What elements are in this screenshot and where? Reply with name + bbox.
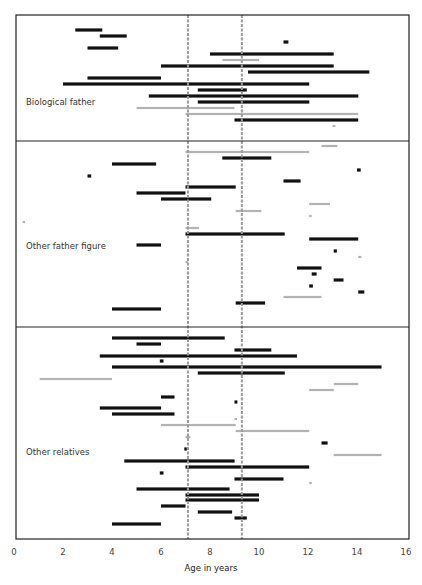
- range-bar: [186, 232, 285, 235]
- range-bar: [284, 40, 289, 43]
- range-bar: [186, 498, 260, 501]
- range-bar: [100, 354, 297, 357]
- range-bar: [88, 46, 119, 49]
- range-bar: [100, 34, 127, 37]
- range-bar: [333, 125, 336, 127]
- range-bar: [198, 88, 247, 91]
- range-bar: [309, 482, 312, 484]
- range-bar: [235, 516, 247, 519]
- range-bar: [309, 389, 334, 391]
- range-bar: [161, 395, 175, 398]
- x-tick-label: 8: [207, 547, 212, 557]
- panel-label-biological-father: Biological father: [26, 97, 96, 107]
- range-bar: [235, 118, 359, 121]
- x-tick-label: 14: [352, 547, 363, 557]
- range-bar: [75, 28, 102, 31]
- chart: Biological father Other father figure Ot…: [0, 0, 422, 585]
- range-bar: [334, 278, 344, 281]
- range-bar: [235, 348, 272, 351]
- range-bar: [334, 383, 359, 385]
- range-bar: [322, 441, 328, 444]
- range-bar: [236, 430, 310, 432]
- range-bar: [235, 400, 238, 403]
- range-bar: [161, 64, 334, 67]
- range-bar: [297, 266, 322, 269]
- range-bar: [186, 465, 310, 468]
- range-bar: [284, 296, 322, 298]
- range-bar: [161, 424, 236, 426]
- range-bar: [40, 378, 112, 380]
- range-bar: [334, 454, 382, 456]
- range-bar: [198, 100, 309, 103]
- x-tick-label: 6: [158, 547, 163, 557]
- range-bar: [222, 156, 271, 159]
- range-bar: [248, 70, 369, 73]
- x-tick-label: 0: [11, 547, 16, 557]
- x-tick-label: 12: [303, 547, 314, 557]
- range-bar: [309, 203, 330, 205]
- range-bar: [160, 359, 164, 362]
- range-bar: [63, 82, 309, 85]
- panel-label-other-relatives: Other relatives: [26, 447, 90, 457]
- range-bar: [322, 145, 338, 147]
- range-bar: [309, 237, 358, 240]
- range-bar: [235, 418, 238, 420]
- range-bar: [88, 76, 162, 79]
- x-axis-title: Age in years: [185, 563, 239, 573]
- range-bar: [88, 174, 92, 177]
- x-tick-label: 4: [109, 547, 114, 557]
- range-bar: [358, 290, 364, 293]
- range-bar: [23, 221, 26, 223]
- range-bar: [186, 493, 260, 496]
- range-bar: [222, 59, 259, 61]
- range-bar: [236, 210, 262, 212]
- range-bar: [184, 447, 187, 450]
- range-bar: [124, 459, 234, 462]
- range-bar: [112, 307, 161, 310]
- range-bar: [112, 522, 161, 525]
- range-bar: [198, 510, 232, 513]
- range-bar: [137, 191, 186, 194]
- range-bar: [160, 471, 164, 474]
- range-bar: [236, 301, 265, 304]
- range-bar: [100, 406, 161, 409]
- range-bar: [309, 284, 313, 287]
- panel-labels: Biological father Other father figure Ot…: [26, 97, 106, 457]
- range-bar: [358, 256, 361, 258]
- range-bar: [284, 179, 301, 182]
- range-bar: [137, 487, 230, 490]
- range-bar: [186, 151, 310, 153]
- x-tick-label: 10: [254, 547, 265, 557]
- range-bar: [334, 249, 337, 252]
- range-bar: [186, 113, 359, 115]
- panel-label-other-father-figure: Other father figure: [26, 241, 106, 251]
- range-bar: [112, 365, 382, 368]
- range-bar: [137, 107, 235, 109]
- x-axis: 0246810121416: [11, 547, 411, 557]
- range-bar: [309, 215, 312, 217]
- range-bar: [186, 185, 236, 188]
- range-bar: [210, 52, 334, 55]
- range-bar: [112, 336, 225, 339]
- range-bar: [137, 342, 162, 345]
- range-bar: [112, 412, 175, 415]
- x-tick-label: 2: [60, 547, 65, 557]
- range-bar: [149, 94, 358, 97]
- range-bar: [112, 162, 156, 165]
- range-bar: [312, 272, 317, 275]
- range-bar: [161, 504, 186, 507]
- x-tick-label: 16: [401, 547, 412, 557]
- range-bar: [137, 243, 162, 246]
- range-bar: [357, 168, 361, 171]
- range-bar: [161, 197, 211, 200]
